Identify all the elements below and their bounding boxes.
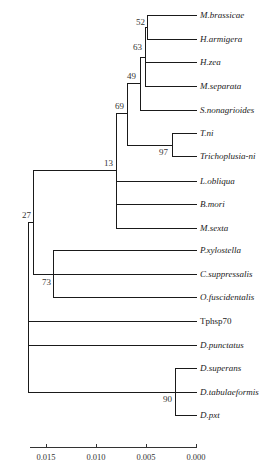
leaf-c-suppressalis: C.suppressalis xyxy=(200,269,253,279)
leaf-h-zea: H.zea xyxy=(199,57,221,67)
leaf-tphsp70: Tphsp70 xyxy=(200,316,232,326)
leaf-m-sexta: M.sexta xyxy=(199,223,229,233)
support-97: 97 xyxy=(159,147,169,157)
support-13: 13 xyxy=(104,158,114,168)
leaf-d-punctatus: D.punctatus xyxy=(199,340,244,350)
leaf-d-superans: D.superans xyxy=(199,363,242,373)
scale-axis: 0.015 0.010 0.005 0.000 xyxy=(30,444,206,462)
support-69: 69 xyxy=(115,101,125,111)
leaf-s-nonagrioides: S.nonagrioides xyxy=(200,105,255,115)
tick-0-005: 0.005 xyxy=(136,452,155,462)
leaf-d-tabulaeformis: D.tabulaeformis xyxy=(199,387,259,397)
tick-0-010: 0.010 xyxy=(86,452,105,462)
leaf-m-separata: M.separata xyxy=(199,81,242,91)
leaf-o-fuscidentalis: O.fuscidentalis xyxy=(200,292,255,302)
support-values: 52 63 49 69 97 13 27 73 90 xyxy=(22,17,173,404)
support-63: 63 xyxy=(133,42,143,52)
leaf-m-brassicae: M.brassicae xyxy=(199,10,244,20)
tree-branches xyxy=(28,15,197,415)
leaf-l-obliqua: L.obliqua xyxy=(199,176,235,186)
tick-0-000: 0.000 xyxy=(186,452,205,462)
support-52: 52 xyxy=(136,17,145,27)
leaf-t-ni: T.ni xyxy=(200,128,214,138)
leaf-b-mori: B.mori xyxy=(200,199,225,209)
support-73: 73 xyxy=(42,277,52,287)
support-90: 90 xyxy=(163,394,173,404)
support-49: 49 xyxy=(127,71,137,81)
leaf-d-pxt: D.pxt xyxy=(199,410,220,420)
leaf-h-armigera: H.armigera xyxy=(199,34,243,44)
tick-0-015: 0.015 xyxy=(36,452,55,462)
leaf-p-xylostella: P.xylostella xyxy=(199,245,242,255)
leaf-labels: M.brassicae H.armigera H.zea M.separata … xyxy=(199,10,259,420)
support-27: 27 xyxy=(22,210,32,220)
phylogenetic-tree: M.brassicae H.armigera H.zea M.separata … xyxy=(0,0,280,471)
leaf-trichoplusia-ni: Trichoplusia-ni xyxy=(200,151,256,161)
